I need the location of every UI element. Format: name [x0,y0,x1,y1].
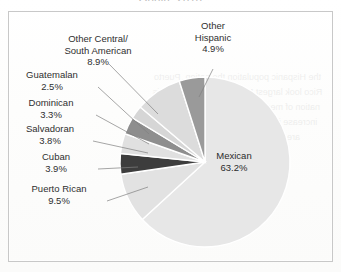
label-cuban: Cuban 3.9% [16,151,96,174]
leader-line-other-central-south-american [109,64,158,114]
label-mexican: Mexican 63.2% [199,150,269,173]
label-dominican: Dominican 3.3% [8,97,94,120]
label-guatemalan: Guatemalan 2.5% [8,69,96,92]
chart-title-fragment: Origin, 2010 [0,0,341,1]
pie-chart: Other Central/ South American 8.9% Other… [8,11,333,262]
label-other-central-south-american: Other Central/ South American 8.9% [18,33,178,68]
label-salvadoran: Salvadoran 3.8% [8,123,92,146]
label-other-hispanic: Other Hispanic 4.9% [173,20,253,55]
label-puerto-rican: Puerto Rican 9.5% [12,183,106,206]
